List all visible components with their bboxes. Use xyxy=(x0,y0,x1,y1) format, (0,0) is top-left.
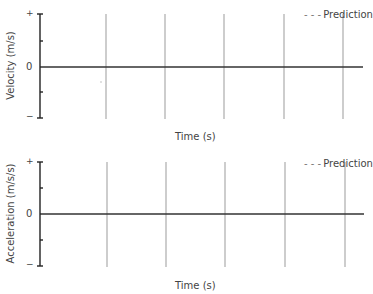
acceleration-x-axis-label: Time (s) xyxy=(175,280,216,291)
acceleration-plus-label: + xyxy=(26,156,34,166)
acceleration-zero-label: 0 xyxy=(26,209,32,219)
dashed-line-icon: - - - xyxy=(304,9,321,20)
acceleration-y-axis-label: Acceleration (m/s/s) xyxy=(5,159,16,269)
velocity-zero-label: 0 xyxy=(26,62,32,72)
velocity-x-axis-label: Time (s) xyxy=(175,131,216,142)
dashed-line-icon: - - - xyxy=(304,158,321,169)
acceleration-plot-area[interactable] xyxy=(0,147,371,294)
velocity-legend-label: Prediction xyxy=(323,9,373,20)
velocity-chart: + 0 − Velocity (m/s) Time (s) - - -Predi… xyxy=(0,0,371,147)
velocity-data-point xyxy=(100,81,102,83)
velocity-plot-area[interactable] xyxy=(0,0,371,147)
acceleration-legend-label: Prediction xyxy=(323,158,373,169)
velocity-legend: - - -Prediction xyxy=(304,9,373,20)
acceleration-legend: - - -Prediction xyxy=(304,158,373,169)
velocity-minus-label: − xyxy=(26,111,34,121)
velocity-y-axis-label: Velocity (m/s) xyxy=(5,26,16,106)
velocity-y-axis xyxy=(37,14,43,118)
acceleration-minus-label: − xyxy=(26,259,34,269)
velocity-plus-label: + xyxy=(26,8,34,18)
acceleration-chart: + 0 − Acceleration (m/s/s) Time (s) - - … xyxy=(0,147,371,294)
